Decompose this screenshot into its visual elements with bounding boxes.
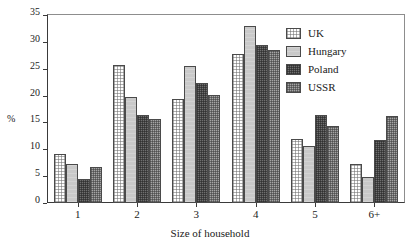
y-axis-tick: 20 [0,96,47,97]
x-tick-label: 2 [134,209,140,220]
legend-swatch-poland [286,64,301,75]
legend-swatch-uk [286,28,301,39]
x-tick-label: 1 [75,209,81,220]
x-tick-mark [78,203,79,207]
legend-label-poland: Poland [308,64,339,75]
y-tick-label: 30 [30,34,40,44]
legend-item-hungary: Hungary [286,42,386,60]
bar-group [232,15,280,203]
bar-hungary-4 [244,26,256,203]
y-tick-label: 5 [35,168,40,178]
x-tick-label: 3 [194,209,200,220]
bar-uk-3 [172,99,184,203]
legend-label-hungary: Hungary [308,46,347,57]
y-tick-label: 35 [30,7,40,17]
x-tick-mark [137,203,138,207]
y-tick-label: 20 [30,88,40,98]
bar-uk-1 [54,154,66,203]
legend-item-uk: UK [286,24,386,42]
y-tick-mark [43,96,47,97]
x-tick-label: 4 [253,209,259,220]
bar-group [54,15,102,203]
bar-poland-3 [196,83,208,203]
y-axis-tick: 0 [0,203,47,204]
x-tick-mark [374,203,375,207]
y-tick-mark [43,42,47,43]
bar-hungary-3 [184,66,196,203]
bar-hungary-6plus [362,177,374,203]
bar-hungary-5 [303,146,315,203]
bar-uk-6plus [350,164,362,203]
bar-uk-5 [291,139,303,203]
y-tick-label: 0 [35,195,40,205]
y-axis-tick: 10 [0,149,47,150]
bar-poland-4 [256,45,268,203]
legend-item-poland: Poland [286,60,386,78]
y-tick-label: 10 [30,141,40,151]
y-axis-tick: 35 [0,15,47,16]
bar-ussr-5 [327,126,339,203]
bar-poland-2 [137,115,149,203]
y-axis-tick: 30 [0,42,47,43]
legend-swatch-hungary [286,46,301,57]
y-tick-label: 25 [30,61,40,71]
bar-uk-4 [232,54,244,203]
bar-group [113,15,161,203]
x-axis-title: Size of household [0,227,420,239]
y-tick-mark [43,69,47,70]
legend-swatch-ussr [286,82,301,93]
x-axis: 123456+ [48,203,404,225]
bar-group [172,15,220,203]
bar-poland-1 [78,179,90,203]
bar-uk-2 [113,65,125,203]
x-tick-label: 6+ [368,209,380,220]
bar-ussr-2 [149,119,161,203]
y-tick-mark [43,122,47,123]
x-tick-mark [315,203,316,207]
bar-poland-5 [315,115,327,203]
legend-item-ussr: USSR [286,78,386,96]
y-axis: 05101520253035 [0,0,47,204]
bar-hungary-2 [125,97,137,203]
legend: UKHungaryPolandUSSR [286,24,386,96]
bar-poland-6plus [374,140,386,203]
x-tick-label: 5 [312,209,318,220]
y-axis-title: % [7,114,15,124]
y-tick-mark [43,149,47,150]
legend-label-uk: UK [308,28,324,39]
bar-ussr-1 [90,167,102,203]
y-axis-tick: 5 [0,176,47,177]
legend-label-ussr: USSR [308,82,336,93]
y-tick-mark [43,176,47,177]
y-tick-mark [43,203,47,204]
y-tick-label: 15 [30,114,40,124]
bar-ussr-6plus [386,116,398,203]
bar-ussr-4 [268,50,280,203]
bar-chart: 05101520253035 % 123456+ Size of househo… [0,0,420,249]
x-tick-mark [196,203,197,207]
x-tick-mark [256,203,257,207]
bar-ussr-3 [208,95,220,204]
y-tick-mark [43,15,47,16]
bar-hungary-1 [66,164,78,203]
y-axis-tick: 25 [0,69,47,70]
